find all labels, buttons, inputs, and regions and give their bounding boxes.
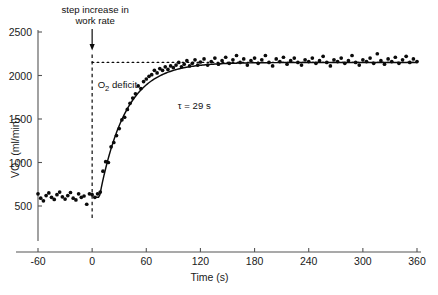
data-point: [180, 65, 184, 69]
data-point: [112, 141, 116, 145]
data-point: [166, 68, 170, 72]
data-point: [235, 54, 239, 58]
data-point: [117, 127, 121, 131]
data-point: [271, 64, 275, 68]
data-point: [134, 92, 138, 96]
data-point: [227, 61, 231, 65]
x-tick-label: 120: [192, 255, 210, 267]
data-point: [150, 73, 154, 77]
data-point: [55, 193, 59, 197]
x-tick-label: -60: [30, 255, 45, 267]
data-point: [300, 63, 304, 67]
data-point: [77, 192, 81, 196]
data-point: [224, 55, 228, 59]
data-point: [185, 59, 189, 63]
data-point: [115, 134, 119, 138]
data-point: [393, 55, 397, 59]
data-point: [285, 62, 289, 66]
data-point: [213, 56, 217, 60]
data-point: [372, 61, 376, 65]
data-point: [69, 191, 73, 195]
data-point: [58, 190, 62, 194]
data-point: [66, 194, 70, 198]
data-point: [412, 57, 416, 61]
data-point: [128, 101, 132, 105]
data-point: [361, 58, 365, 62]
data-point: [52, 198, 56, 202]
x-tick-label: 300: [354, 255, 372, 267]
data-point: [397, 61, 401, 65]
data-point: [209, 60, 213, 64]
data-point: [292, 56, 296, 60]
data-point: [36, 192, 40, 196]
data-point: [193, 58, 197, 62]
data-point: [172, 66, 176, 70]
data-point: [220, 59, 224, 63]
data-point: [365, 60, 369, 64]
data-point: [90, 193, 94, 197]
data-point: [74, 198, 78, 202]
data-point: [401, 58, 405, 62]
data-point: [238, 61, 242, 65]
data-point: [314, 61, 318, 65]
data-point: [347, 59, 351, 63]
data-point: [199, 60, 203, 64]
x-tick-label: 240: [300, 255, 318, 267]
data-point: [196, 63, 200, 67]
data-point: [289, 59, 293, 63]
data-point: [256, 61, 260, 65]
data-point: [249, 59, 253, 63]
data-point: [93, 195, 97, 199]
y-tick-label: 2500: [9, 26, 33, 38]
data-point: [174, 63, 178, 67]
x-tick-label: 180: [246, 255, 264, 267]
data-point: [188, 64, 192, 68]
data-point: [329, 64, 333, 68]
tau-label: τ = 29 s: [178, 100, 211, 111]
data-point: [350, 54, 354, 58]
data-point: [39, 196, 43, 200]
data-point: [415, 60, 419, 64]
data-points-layer: [36, 52, 419, 206]
data-point: [42, 199, 46, 203]
data-point: [307, 60, 311, 64]
y-axis-title: VO2 (ml/min): [9, 118, 24, 178]
data-point: [190, 61, 194, 65]
data-point: [303, 58, 307, 62]
data-point: [120, 118, 124, 122]
data-point: [177, 61, 181, 65]
data-point: [231, 58, 235, 62]
data-point: [260, 58, 264, 62]
data-point: [343, 61, 347, 65]
data-point: [131, 96, 135, 100]
data-point: [202, 57, 206, 61]
data-point: [310, 56, 314, 60]
data-point: [47, 191, 51, 195]
data-point: [386, 57, 390, 61]
data-point: [163, 65, 167, 69]
data-point: [144, 77, 148, 81]
data-point: [278, 60, 282, 64]
chart-canvas: 5001000150020002500-60060120180240300360…: [0, 0, 438, 295]
onset-arrow-head: [90, 44, 95, 51]
data-point: [44, 194, 48, 198]
data-point: [274, 57, 278, 61]
data-point: [339, 56, 343, 60]
data-point: [354, 61, 358, 65]
x-tick-label: 0: [89, 255, 95, 267]
data-point: [390, 60, 394, 64]
data-point: [125, 108, 129, 112]
data-point: [408, 61, 412, 65]
data-point: [123, 115, 127, 119]
y-tick-label: 2000: [9, 70, 33, 82]
data-point: [318, 59, 322, 63]
data-point: [153, 68, 157, 72]
o2-deficit-label: O2 deficit: [98, 79, 138, 93]
data-point: [109, 145, 113, 149]
data-point: [321, 55, 325, 59]
data-point: [107, 161, 111, 165]
data-point: [296, 61, 300, 65]
data-point: [101, 169, 105, 173]
data-point: [242, 57, 246, 61]
data-point: [379, 59, 383, 63]
